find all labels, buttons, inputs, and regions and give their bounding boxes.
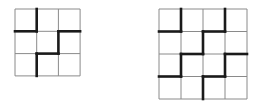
grid-4x4	[159, 9, 247, 99]
grid-3x3	[15, 9, 80, 76]
grid-diagram-canvas	[0, 0, 263, 103]
